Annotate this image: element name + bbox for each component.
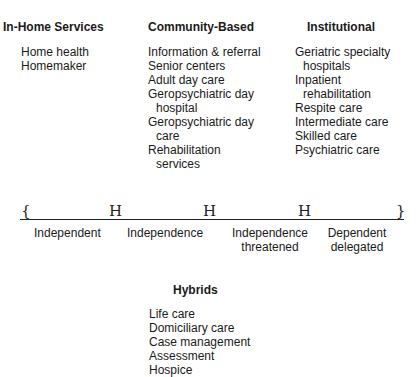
community-based-heading: Community-Based	[148, 20, 254, 34]
list-item: Geropsychiatric day	[148, 115, 261, 129]
list-item: Psychiatric care	[295, 143, 390, 157]
right-brace-mark: }	[396, 203, 406, 219]
institutional-list: Geriatric specialty hospitals Inpatient …	[295, 45, 390, 157]
segment-label-dependent-delegated: Dependent delegated	[322, 226, 392, 254]
list-item: Rehabilitation	[148, 143, 261, 157]
segment-divider-mark: H	[109, 203, 122, 219]
list-item-continuation: rehabilitation	[295, 87, 390, 101]
in-home-services-heading: In-Home Services	[3, 20, 104, 34]
segment-label-line-2: delegated	[322, 240, 392, 254]
segment-label-independence-threatened: Independence threatened	[222, 226, 318, 254]
list-item: Inpatient	[295, 73, 390, 87]
list-item: Intermediate care	[295, 115, 390, 129]
list-item-continuation: hospitals	[295, 59, 390, 73]
list-item: Home health	[21, 45, 89, 59]
list-item: Case management	[149, 335, 250, 349]
segment-divider-mark: H	[298, 203, 311, 219]
list-item: Homemaker	[21, 59, 89, 73]
segment-label-line-1: Dependent	[322, 226, 392, 240]
segment-label-line-2: threatened	[222, 240, 318, 254]
segment-divider-mark: H	[203, 203, 216, 219]
list-item: Life care	[149, 307, 250, 321]
list-item: Information & referral	[148, 45, 261, 59]
community-based-list: Information & referral Senior centers Ad…	[148, 45, 261, 171]
segment-label-line-1: Independence	[222, 226, 318, 240]
list-item: Hospice	[149, 363, 250, 377]
hybrids-heading: Hybrids	[173, 283, 218, 297]
list-item-continuation: services	[148, 157, 261, 171]
list-item-continuation: hospital	[148, 101, 261, 115]
list-item: Senior centers	[148, 59, 261, 73]
list-item: Domiciliary care	[149, 321, 250, 335]
list-item: Skilled care	[295, 129, 390, 143]
list-item: Respite care	[295, 101, 390, 115]
segment-label-independent: Independent	[34, 226, 101, 240]
list-item: Assessment	[149, 349, 250, 363]
hybrids-list: Life care Domiciliary care Case manageme…	[149, 307, 250, 377]
list-item: Geriatric specialty	[295, 45, 390, 59]
institutional-heading: Institutional	[307, 20, 375, 34]
list-item: Geropsychiatric day	[148, 87, 261, 101]
segment-label-independence: Independence	[127, 226, 203, 240]
list-item-continuation: care	[148, 129, 261, 143]
in-home-services-list: Home health Homemaker	[21, 45, 89, 73]
list-item: Adult day care	[148, 73, 261, 87]
left-brace-mark: {	[21, 203, 31, 219]
